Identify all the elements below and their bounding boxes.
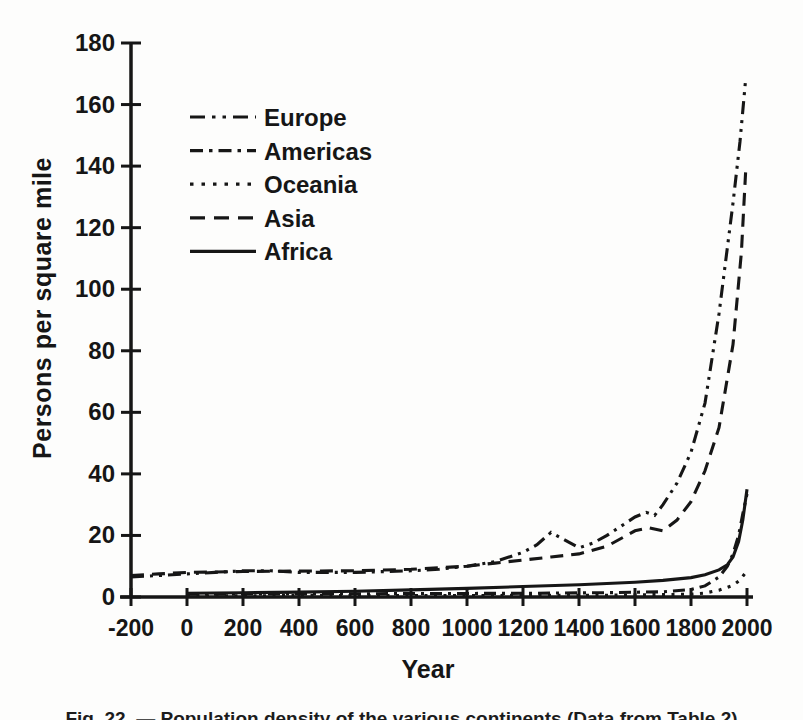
legend-label-asia: Asia [264,205,315,232]
legend-item-asia: Asia [190,205,315,232]
y-tick-label: 20 [88,521,115,548]
figure-caption: Fig. 22. — Population density of the var… [0,708,803,720]
y-tick-label: 100 [75,275,115,302]
legend: EuropeAmericasOceaniaAsiaAfrica [190,104,372,265]
y-tick-label: 0 [102,583,115,610]
x-tick-label: 400 [280,615,318,641]
y-tick-label: 120 [75,214,115,241]
y-tick-label: 180 [75,29,115,56]
legend-label-africa: Africa [264,238,333,265]
figure-page: 020406080100120140160180-200020040060080… [0,0,803,720]
population-density-chart: 020406080100120140160180-200020040060080… [0,0,803,720]
y-tick-label: 80 [88,337,115,364]
y-tick-label: 60 [88,398,115,425]
x-axis-title: Year [402,655,455,684]
x-tick-label: 1000 [441,615,492,641]
series-line-europe [131,80,746,577]
y-axis-title: Persons per square mile [28,157,57,459]
x-tick-label: -200 [108,615,154,641]
x-tick-label: 1200 [497,615,548,641]
x-tick-label: 1800 [665,615,716,641]
x-tick-label: 0 [181,615,194,641]
legend-item-africa: Africa [190,238,333,265]
legend-label-americas: Americas [264,138,372,165]
x-tick-label: 2000 [721,615,772,641]
x-tick-label: 1400 [553,615,604,641]
legend-item-americas: Americas [190,138,372,165]
legend-item-europe: Europe [190,104,347,131]
y-tick-label: 140 [75,152,115,179]
series-line-asia [131,172,746,575]
legend-item-oceania: Oceania [190,171,358,198]
legend-label-oceania: Oceania [264,171,358,198]
x-tick-label: 600 [336,615,374,641]
y-tick-label: 40 [88,460,115,487]
x-tick-label: 800 [392,615,430,641]
legend-label-europe: Europe [264,104,347,131]
y-tick-label: 160 [75,91,115,118]
x-tick-label: 1600 [609,615,660,641]
x-tick-label: 200 [224,615,262,641]
